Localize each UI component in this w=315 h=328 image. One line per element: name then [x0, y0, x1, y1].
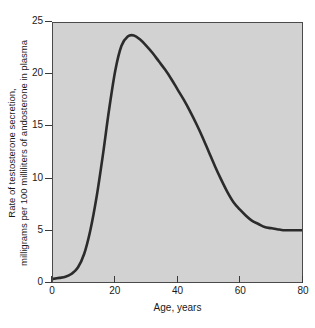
- y-axis-tick-mark: [45, 73, 52, 74]
- x-axis-tick-mark: [239, 276, 240, 283]
- series-line-testosterone-secretion: [53, 35, 302, 279]
- y-axis-tick-label: 5: [37, 224, 43, 236]
- y-axis-tick-label: 10: [32, 172, 43, 184]
- x-axis-tick-label: 40: [172, 285, 183, 297]
- y-axis-tick-label: 25: [32, 15, 43, 27]
- x-axis-tick-mark: [302, 276, 303, 283]
- plot-area: [52, 22, 303, 283]
- y-axis: 0510152025: [0, 22, 52, 283]
- y-axis-tick-mark: [45, 21, 52, 22]
- x-axis-tick-mark: [114, 276, 115, 283]
- x-axis-tick-mark: [177, 276, 178, 283]
- data-curve-svg: [53, 23, 302, 282]
- x-axis-tick-label: 60: [235, 285, 246, 297]
- y-axis-tick-mark: [45, 125, 52, 126]
- y-axis-tick-mark: [45, 230, 52, 231]
- x-axis-title: Age, years: [52, 302, 303, 313]
- y-axis-tick-label: 20: [32, 67, 43, 79]
- x-axis-tick-mark: [51, 276, 52, 283]
- x-axis-tick-label: 0: [49, 285, 55, 297]
- testosterone-secretion-chart: Rate of testosterone secretion, milligra…: [0, 0, 315, 328]
- y-axis-tick-label: 15: [32, 119, 43, 131]
- x-axis-tick-label: 80: [297, 285, 308, 297]
- y-axis-tick-label: 0: [37, 276, 43, 288]
- x-axis-tick-label: 20: [109, 285, 120, 297]
- y-axis-tick-mark: [45, 178, 52, 179]
